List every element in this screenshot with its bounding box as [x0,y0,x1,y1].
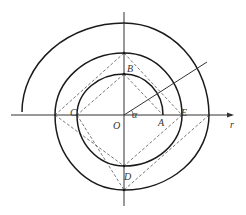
point-labels: O α r A B C D E [70,63,234,182]
r-axis-label: r [230,119,234,130]
spiral-point-dot [123,189,126,192]
point-label-c: C [70,107,77,118]
angle-label: α [132,109,138,120]
point-label-d: D [123,171,132,182]
dashed-segment [124,115,182,166]
axes [11,12,234,206]
spiral-point-dot [123,73,126,76]
diagram-canvas: O α r A B C D E [0,0,246,215]
spiral-point-dot [123,165,126,168]
point-label-a: A [157,117,165,128]
point-label-b: B [127,63,133,74]
dashed-segment [55,53,124,115]
origin-label: O [113,120,120,131]
spiral-diagram: O α r A B C D E [0,0,246,215]
axis-arrow-icon [227,113,234,118]
spiral-point-dot [123,52,126,55]
polar-ray [124,62,207,115]
dashed-segment [124,115,209,190]
point-label-e: E [180,107,187,118]
angle-ray [124,62,207,115]
